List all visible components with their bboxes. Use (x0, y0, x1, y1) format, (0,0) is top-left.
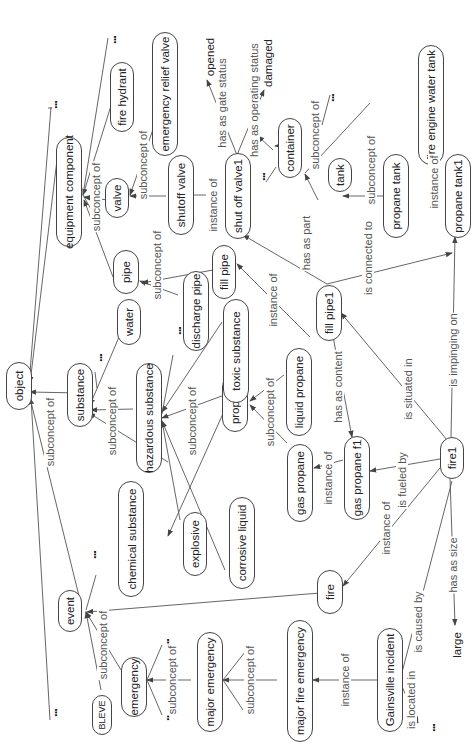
node-fill-pipe1[interactable]: fill pipe1 (316, 285, 342, 341)
ellipsis-7: ... (87, 551, 97, 559)
node-chemical-substance[interactable]: chemical substance (118, 481, 144, 597)
edge-label-propane-children: subconcept of (264, 377, 276, 448)
edge-label-is-located-in: is located in (405, 670, 417, 730)
edge-label-has-as-content: has as content (332, 350, 344, 424)
edge-label-is-connected-to: is connected to (362, 220, 374, 296)
edge-label-container-tank: subconcept of (309, 100, 321, 171)
ellipsis-2: ... (107, 36, 117, 44)
node-major-emergency[interactable]: major emergency (197, 632, 223, 732)
edge-label-substance-object: subconcept of (44, 397, 56, 468)
node-event[interactable]: event (58, 590, 82, 632)
ellipsis-3: ... (256, 173, 266, 181)
value-damaged: damaged (262, 39, 274, 87)
edge-label-is-impinging-on: is impinging on (447, 312, 459, 387)
node-fire[interactable]: fire (317, 570, 343, 614)
ellipsis-11: ... (426, 724, 436, 732)
node-pipe[interactable]: pipe (113, 250, 139, 294)
node-tank[interactable]: tank (328, 158, 352, 192)
edge-label-is-situated-in: is situated in (402, 357, 414, 420)
node-emergency-relief-valve[interactable]: emergency relief valve (152, 32, 178, 156)
edge-label-valve-equipment: subconcept of (90, 162, 102, 233)
edge-label-tank-children: subconcept of (365, 135, 377, 206)
node-toxic-substance-label: toxic substance (230, 311, 242, 390)
edge-label-propanetank1: instance of (428, 154, 440, 209)
edge-label-has-as-size: has as size (447, 536, 459, 593)
node-water[interactable]: water (117, 299, 141, 345)
edge-label-fillpipe1-instance: instance of (267, 272, 279, 327)
node-gainsville-incident[interactable]: Gainsville incident (377, 628, 403, 732)
edge-label-substance-children: subconcept of (106, 386, 118, 457)
edge-label-emergency-children: subconcept of (166, 645, 178, 716)
edge-label-is-caused-by: is caused by (412, 590, 424, 653)
edge-label-event-children: subconcept of (97, 610, 109, 681)
node-hazardous-substance[interactable]: hazardous substance (136, 363, 162, 473)
node-propane-tank1[interactable]: propane tank1 (445, 154, 471, 238)
node-discharge-pipe[interactable]: discharge pipe (183, 271, 209, 351)
ellipsis-8: ... (48, 709, 58, 717)
node-object[interactable]: object (6, 362, 32, 410)
node-valve[interactable]: valve (105, 178, 129, 218)
edge-label-has-as-part: has as part (300, 215, 312, 271)
node-gas-propane-f1[interactable]: gas propane f1 (344, 436, 370, 520)
node-fire-engine-water-tank[interactable]: fire engine water tank (418, 45, 444, 165)
node-equipment-component[interactable]: equipment component (56, 137, 82, 247)
edge-label-gate-status: has as gate status (216, 57, 228, 148)
node-shut-off-valve1[interactable]: shut off valve1 (225, 153, 251, 239)
value-opened: opened (204, 38, 216, 76)
edge-label-gainsville-instance: instance of (339, 652, 351, 707)
node-emergency[interactable]: emergency (121, 657, 147, 717)
edge-label-gaspropanef1: instance of (322, 450, 334, 505)
node-gas-propane[interactable]: gas propane (287, 444, 313, 522)
node-container[interactable]: container (278, 118, 302, 178)
node-fire1[interactable]: fire1 (440, 437, 464, 479)
node-shutoff-valve[interactable]: shutoff valve (168, 155, 194, 235)
ellipsis-5: ... (93, 354, 103, 362)
ellipsis-1: ... (48, 101, 58, 109)
edge-label-is-fueled-by: is fueled by (396, 451, 408, 509)
node-propane-tank[interactable]: propane tank (383, 154, 409, 238)
ellipsis-6: ... (172, 327, 182, 335)
edge-label-fire-instance: instance of (380, 500, 392, 555)
ellipsis-4: ... (325, 94, 335, 102)
edge-label-operating-status: has as operating status (248, 42, 260, 158)
edge-label-shutoffvalve1: instance of (207, 177, 219, 232)
node-substance[interactable]: substance (67, 363, 93, 427)
edge-label-erv-valve: subconcept of (137, 130, 149, 201)
value-large: large (451, 632, 463, 658)
node-bleve[interactable]: BLEVE (92, 695, 112, 735)
node-major-fire-emergency[interactable]: major fire emergency (287, 620, 313, 742)
node-liquid-propane[interactable]: liquid propane (286, 348, 312, 436)
edge-label-pipe-children: subconcept of (151, 230, 163, 301)
node-explosive[interactable]: explosive (183, 512, 207, 576)
edge-label-hazardous-children: subconcept of (186, 386, 198, 457)
node-fill-pipe[interactable]: fill pipe (212, 245, 236, 299)
node-corrosive-liquid[interactable]: corrosive liquid (229, 497, 255, 589)
edge-label-major-emergency-children: subconcept of (244, 645, 256, 716)
ontology-diagram: object substance equipment component eve… (0, 0, 474, 745)
node-fire-hydrant[interactable]: fire hydrant (110, 62, 134, 132)
